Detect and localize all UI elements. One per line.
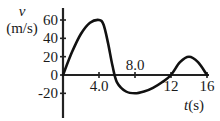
x-axis-label: t(s): [184, 97, 204, 114]
y-axis: 6040200-20: [38, 8, 66, 118]
y-tick-label: 60: [43, 12, 58, 28]
x-axis-unit: (s): [188, 97, 204, 114]
y-tick-label: 40: [43, 30, 58, 46]
y-tick-label: 0: [51, 67, 59, 83]
velocity-time-chart: 6040200-20 4.08.01216 v (m/s) t(s): [0, 0, 220, 121]
y-axis-unit: (m/s): [6, 20, 38, 37]
x-tick-label: 4.0: [90, 78, 109, 94]
x-axis: 4.08.01216: [63, 57, 215, 94]
y-axis-symbol: v: [19, 3, 26, 19]
y-tick-label: 20: [43, 49, 58, 65]
y-tick-label: -20: [38, 85, 58, 101]
x-tick-label: 8.0: [126, 57, 145, 73]
x-tick-label: 16: [200, 78, 216, 94]
